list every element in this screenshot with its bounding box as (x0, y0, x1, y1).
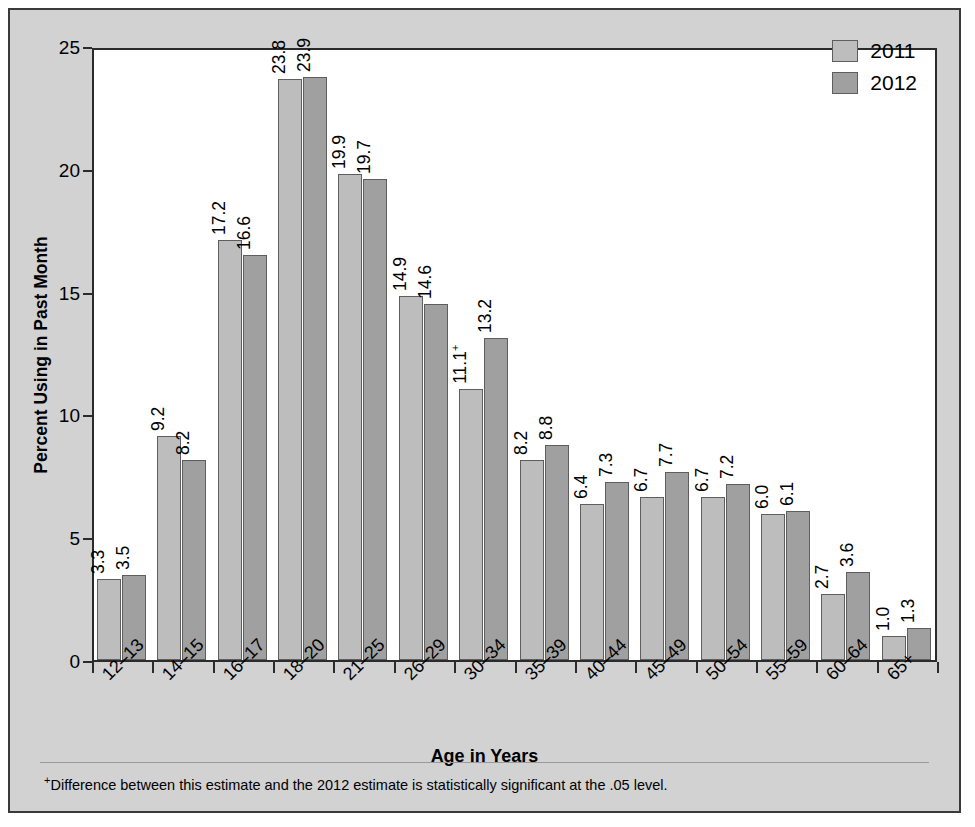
bar-group: 2.73.6 (818, 50, 878, 660)
bar-group: 6.77.2 (698, 50, 758, 660)
bar-value-label: 16.6 (234, 216, 255, 250)
bar-group: 6.06.1 (758, 50, 818, 660)
bar-value-label: 2.7 (812, 565, 833, 589)
bar-2011: 3.3 (97, 579, 121, 660)
bar-value-label: 19.9 (329, 135, 350, 169)
bar-value-label: 8.2 (511, 431, 532, 455)
bar-group: 1.01.3 (879, 50, 939, 660)
bar-value-label: 23.9 (294, 38, 315, 72)
footnote-text: Difference between this estimate and the… (50, 777, 667, 793)
y-axis-title-container: Percent Using in Past Month (28, 48, 54, 662)
x-tick-mark (635, 662, 637, 673)
bar-2012: 14.6 (424, 304, 448, 660)
legend-label-2012: 2012 (870, 71, 917, 95)
bar-value-label: 13.2 (475, 299, 496, 333)
bar-2012: 13.2 (484, 338, 508, 660)
bar-2011: 8.2 (520, 460, 544, 660)
x-axis-title: Age in Years (10, 746, 959, 767)
legend-item-2012: 2012 (832, 70, 917, 96)
bar-value-label: 6.7 (631, 467, 652, 491)
significance-marker: + (449, 345, 461, 351)
bar-2011: 6.0 (761, 514, 785, 660)
legend: 2011 2012 (832, 38, 917, 102)
plot-area: 3.33.59.28.217.216.623.823.919.919.714.9… (92, 48, 937, 662)
x-tick-mark (816, 662, 818, 673)
bar-value-label: 9.2 (148, 406, 169, 430)
bar-2012: 23.9 (303, 77, 327, 660)
bar-value-label: 11.1+ (449, 345, 471, 384)
bar-group: 23.823.9 (275, 50, 335, 660)
y-tick-label: 25 (34, 37, 80, 59)
chart-figure: Percent Using in Past Month 0510152025 3… (8, 8, 961, 813)
bar-value-label: 8.8 (536, 416, 557, 440)
bar-2011: 17.2 (218, 240, 242, 660)
x-tick-mark (877, 662, 879, 673)
bar-group: 8.28.8 (517, 50, 577, 660)
bar-2011: 9.2 (157, 436, 181, 660)
bar-2012: 16.6 (243, 255, 267, 660)
bar-group: 9.28.2 (154, 50, 214, 660)
bar-2012: 7.7 (665, 472, 689, 660)
y-tick-label: 20 (34, 160, 80, 182)
y-axis-title: Percent Using in Past Month (31, 236, 52, 473)
bar-value-label: 7.3 (596, 453, 617, 477)
bars-layer: 3.33.59.28.217.216.623.823.919.919.714.9… (94, 50, 935, 660)
y-tick-mark (83, 47, 92, 49)
bar-2011: 19.9 (338, 174, 362, 660)
x-tick-mark (152, 662, 154, 673)
bar-value-label: 14.6 (415, 265, 436, 299)
bar-value-label: 3.3 (88, 550, 109, 574)
y-tick-mark (83, 170, 92, 172)
bar-value-label: 6.4 (571, 475, 592, 499)
bar-group: 19.919.7 (335, 50, 395, 660)
bar-2011: 6.7 (640, 497, 664, 660)
bar-2011: 11.1+ (459, 389, 483, 660)
bar-value-label: 3.5 (113, 545, 134, 569)
bar-group: 17.216.6 (215, 50, 275, 660)
y-tick-label: 0 (34, 651, 80, 673)
x-tick-mark (756, 662, 758, 673)
x-tick-mark (696, 662, 698, 673)
bar-value-label: 6.1 (777, 482, 798, 506)
bar-value-label: 14.9 (390, 257, 411, 291)
bar-value-label: 1.0 (873, 606, 894, 630)
x-tick-mark (213, 662, 215, 673)
bar-2012: 8.8 (545, 445, 569, 660)
x-tick-mark (937, 662, 939, 673)
bar-2011: 6.7 (701, 497, 725, 660)
y-tick-mark (83, 415, 92, 417)
bar-value-label: 1.3 (898, 599, 919, 623)
legend-swatch-2012-icon (832, 72, 858, 94)
bar-2011: 6.4 (580, 504, 604, 660)
footnote: +Difference between this estimate and th… (44, 774, 935, 794)
y-tick-mark (83, 538, 92, 540)
bar-value-label: 6.0 (752, 484, 773, 508)
bar-group: 6.77.7 (637, 50, 697, 660)
bar-value-label: 23.8 (269, 40, 290, 74)
y-tick-mark (83, 293, 92, 295)
bar-value-label: 6.7 (692, 467, 713, 491)
bar-2012: 7.2 (726, 484, 750, 660)
bar-group: 3.33.5 (94, 50, 154, 660)
bar-2011: 23.8 (278, 79, 302, 660)
bar-2012: 8.2 (182, 460, 206, 660)
x-tick-mark (575, 662, 577, 673)
x-tick-mark (394, 662, 396, 673)
bar-2012: 7.3 (605, 482, 629, 660)
bar-value-label: 7.2 (717, 455, 738, 479)
x-tick-mark (454, 662, 456, 673)
bar-group: 6.47.3 (577, 50, 637, 660)
y-tick-mark (83, 661, 92, 663)
bar-value-label: 8.2 (173, 431, 194, 455)
footnote-divider (40, 762, 929, 763)
x-tick-mark (333, 662, 335, 673)
bar-2012: 19.7 (363, 179, 387, 660)
x-tick-mark (515, 662, 517, 673)
y-tick-label: 5 (34, 528, 80, 550)
bar-group: 14.914.6 (396, 50, 456, 660)
legend-swatch-2011-icon (832, 40, 858, 62)
bar-value-label: 7.7 (656, 443, 677, 467)
bar-value-label: 17.2 (209, 201, 230, 235)
bar-group: 11.1+13.2 (456, 50, 516, 660)
y-tick-label: 10 (34, 405, 80, 427)
